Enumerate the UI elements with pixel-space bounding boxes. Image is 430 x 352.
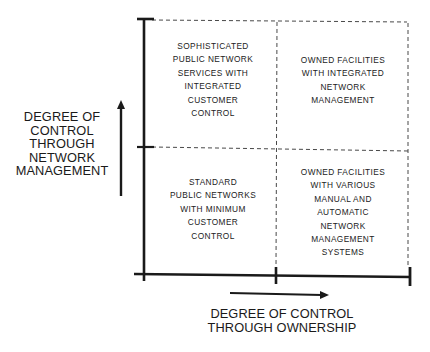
x-axis-line — [134, 274, 410, 277]
x-axis-label-line: THROUGH OWNERSHIP — [196, 321, 368, 335]
quadrant-text-line: STANDARD — [150, 176, 276, 189]
quadrant-text-line: MANAGEMENT — [277, 233, 409, 246]
quadrant-text-line: OWNED FACILITIES — [277, 166, 409, 179]
y-axis-label-line: MANAGEMENT — [8, 164, 116, 178]
quadrant-text-line: WITH VARIOUS — [277, 179, 409, 192]
quadrant-text-line: OWNED FACILITIES — [278, 54, 408, 67]
quadrant-text-line: WITH INTEGRATED — [278, 67, 408, 80]
quadrant-top-right: OWNED FACILITIES WITH INTEGRATED NETWORK… — [278, 54, 408, 108]
quadrant-text-line: AUTOMATIC — [277, 206, 409, 219]
horizontal-dashed-divider — [152, 147, 408, 151]
quadrant-text-line: MANAGEMENT — [278, 94, 408, 107]
x-axis-label: DEGREE OF CONTROL THROUGH OWNERSHIP — [196, 307, 368, 334]
quadrant-text-line: WITH MINIMUM — [150, 203, 276, 216]
quadrant-text-line: SERVICES WITH — [150, 67, 276, 80]
quadrant-text-line: PUBLIC NETWORK — [150, 53, 276, 66]
quadrant-bottom-right: OWNED FACILITIES WITH VARIOUS MANUAL AND… — [277, 166, 409, 260]
quadrant-text-line: NETWORK — [278, 81, 408, 94]
quadrant-text-line: CUSTOMER — [150, 216, 276, 229]
quadrant-top-left: SOPHISTICATED PUBLIC NETWORK SERVICES WI… — [150, 40, 276, 120]
up-arrow-icon — [117, 100, 125, 196]
y-axis-label-line: DEGREE OF — [8, 110, 116, 124]
quadrant-bottom-left: STANDARD PUBLIC NETWORKS WITH MINIMUM CU… — [150, 176, 276, 243]
y-axis-label-line: THROUGH — [8, 137, 116, 151]
x-axis-label-line: DEGREE OF CONTROL — [196, 307, 368, 321]
quadrant-text-line: NETWORK — [277, 220, 409, 233]
quadrant-text-line: SOPHISTICATED — [150, 40, 276, 53]
top-dashed-border — [152, 20, 407, 22]
quadrant-text-line: CONTROL — [150, 107, 276, 120]
quadrant-text-line: INTEGRATED — [150, 80, 276, 93]
quadrant-text-line: MANUAL AND — [277, 193, 409, 206]
quadrant-text-line: PUBLIC NETWORKS — [150, 189, 276, 202]
quadrant-text-line: CUSTOMER — [150, 94, 276, 107]
y-axis-label: DEGREE OF CONTROL THROUGH NETWORK MANAGE… — [8, 110, 116, 178]
right-arrow-icon — [230, 291, 329, 299]
y-axis-label-line: NETWORK — [8, 151, 116, 165]
quadrant-text-line: SYSTEMS — [277, 246, 409, 259]
quadrant-text-line: CONTROL — [150, 230, 276, 243]
y-axis-label-line: CONTROL — [8, 124, 116, 138]
